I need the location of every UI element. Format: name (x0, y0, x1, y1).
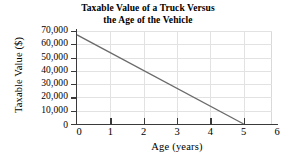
data-series-layer (0, 0, 292, 164)
x-axis-label: Age (years) (77, 141, 277, 152)
data-line (77, 35, 244, 124)
chart-figure: Taxable Value of a Truck Versus the Age … (0, 0, 292, 164)
